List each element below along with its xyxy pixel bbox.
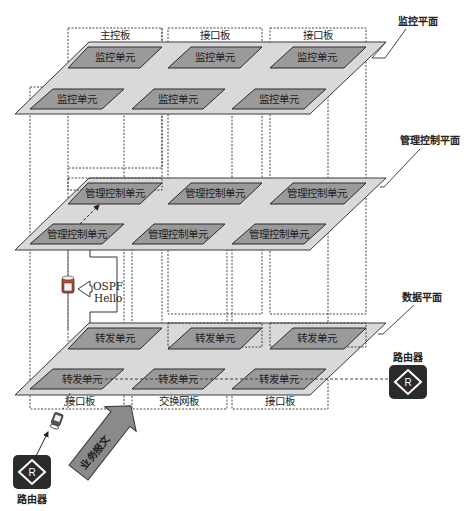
control-data-plane-diagram: 监控单元 监控单元 监控单元 监控单元 监控单元 监控单元 管理控制单元 管理控… [0,0,471,511]
forwarding-unit-label: 转发单元 [95,332,136,344]
monitor-unit-label: 监控单元 [158,93,199,105]
packet-icon-ingress [50,412,64,430]
ospf-hello-arrow [78,281,92,297]
management-unit-label: 管理控制单元 [148,228,209,240]
ospf-hello-path: OSPF Hello [62,250,123,330]
packet-icon [62,276,74,293]
board-label-interface-back-2: 接口板 [303,29,334,41]
monitor-unit-label: 监控单元 [259,93,300,105]
board-label-interface-front: 接口板 [65,395,96,407]
management-unit-label: 管理控制单元 [249,228,310,240]
monitor-unit-label: 监控单元 [57,93,98,105]
plane-label-monitor: 监控平面 [398,15,438,27]
management-unit-label: 管理控制单元 [185,187,246,199]
management-unit-label: 管理控制单元 [47,228,108,240]
plane-labels: 监控平面 管理控制平面 数据平面 [372,15,460,334]
monitor-unit-label: 监控单元 [95,51,136,63]
ingress-flow: 业务报文 R 路由器 [13,393,147,505]
management-plane: 管理控制单元 管理控制单元 管理控制单元 管理控制单元 管理控制单元 管理控制单… [15,178,386,250]
monitor-unit-label: 监控单元 [297,51,338,63]
management-unit-label: 管理控制单元 [85,187,146,199]
router-to-packet-line [36,432,48,456]
ospf-label-line1: OSPF [93,280,123,292]
board-label-interface-front-2: 接口板 [265,395,296,407]
board-label-interface-back-1: 接口板 [200,29,231,41]
board-label-switch-fabric: 交换网板 [159,395,200,407]
forwarding-unit-label: 转发单元 [195,332,236,344]
router-left-label: 路由器 [17,493,48,505]
monitor-plane: 监控单元 监控单元 监控单元 监控单元 监控单元 监控单元 [15,42,386,114]
router-right-icon-letter: R [404,377,411,388]
board-label-main-control: 主控板 [100,29,131,41]
forwarding-unit-label: 转发单元 [297,332,338,344]
monitor-unit-label: 监控单元 [195,51,236,63]
router-left-icon-letter: R [28,467,35,478]
plane-label-data: 数据平面 [402,291,442,303]
ospf-label-line2: Hello [94,292,122,304]
data-plane: 转发单元 转发单元 转发单元 转发单元 转发单元 转发单元 [15,323,390,395]
plane-label-management: 管理控制平面 [400,134,460,146]
service-packet-arrow: 业务报文 [63,393,147,485]
router-right-label: 路由器 [393,351,424,363]
management-unit-label: 管理控制单元 [287,187,348,199]
router-right: 路由器 R [389,351,427,399]
